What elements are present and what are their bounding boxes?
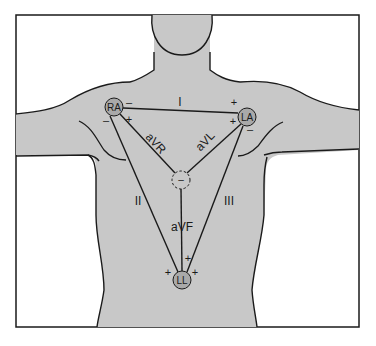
electrode-LL-label: LL bbox=[176, 275, 188, 286]
polarity-plus: + bbox=[126, 113, 132, 125]
polarity-plus: + bbox=[165, 266, 171, 278]
polarity-plus: + bbox=[185, 252, 191, 264]
polarity-plus: + bbox=[230, 115, 236, 127]
electrode-LA-label: LA bbox=[241, 112, 254, 123]
lead-aVF-label: aVF bbox=[171, 220, 193, 234]
polarity-plus: + bbox=[231, 96, 237, 108]
lead-III-label: III bbox=[224, 194, 234, 208]
polarity-minus: – bbox=[103, 114, 110, 126]
polarity-minus: – bbox=[126, 96, 133, 108]
lead-I-label: I bbox=[178, 95, 181, 109]
electrode-RA-label: RA bbox=[107, 102, 121, 113]
polarity-minus: – bbox=[247, 123, 254, 135]
central-terminal: – bbox=[172, 171, 190, 189]
lead-II-label: II bbox=[135, 194, 142, 208]
einthoven-triangle-diagram: RA LA LL – I II III aVR aVL aVF – + + – … bbox=[0, 0, 376, 346]
central-terminal-sign: – bbox=[178, 174, 184, 185]
electrode-LL: LL bbox=[173, 271, 191, 289]
polarity-plus: + bbox=[192, 266, 198, 278]
